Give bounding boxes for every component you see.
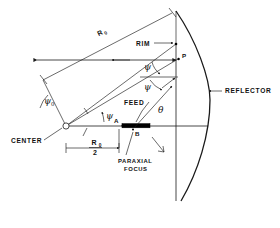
center-leader-line [44, 128, 62, 140]
point-b-label: B [135, 130, 140, 137]
psi-zero-arc-inner [84, 108, 88, 114]
reflector-label: REFLECTOR [225, 87, 271, 94]
ray-feed-to-p [134, 86, 172, 128]
r0-half-numerator: R [91, 139, 96, 146]
paraxial-focus-leader-right [152, 137, 164, 152]
psi-lower-arc [150, 80, 162, 90]
r0-dimension-line [43, 13, 172, 80]
psi-center-arc [102, 112, 104, 122]
feed-label: FEED [124, 99, 144, 106]
r0-label: R [96, 29, 104, 38]
rim-point-dot [175, 43, 178, 46]
point-a-label: A [114, 117, 119, 124]
psi-center-label: ψ [106, 111, 114, 121]
ray-center-to-p [66, 59, 178, 126]
r0-dimension-tick-right [169, 8, 176, 17]
r0-label-group: R 0 [96, 27, 108, 39]
point-b-dot [132, 129, 134, 131]
r0-half-denominator: 2 [93, 149, 97, 156]
r0-half-label-group: R 0 2 [89, 139, 102, 156]
paraxial-focus-label-line2: FOCUS [124, 166, 148, 172]
figure-root: R 0 ψ 0 ψ ψ ψ θ R 0 2 CENTER RIM REFLECT… [0, 0, 280, 228]
theta-label: θ [158, 105, 164, 115]
psi-upper-label: ψ [144, 62, 152, 72]
center-label: CENTER [11, 137, 42, 144]
point-p-label: P [182, 52, 186, 59]
psi-zero-label-subscript: 0 [51, 101, 55, 107]
point-p-dot [177, 58, 179, 60]
paraxial-focus-leader-left [126, 132, 133, 155]
ray-p-return-arrow [162, 78, 175, 88]
r0-dimension-tick-left [40, 75, 47, 84]
r0-label-subscript: 0 [103, 30, 108, 36]
caption-strip [0, 214, 280, 228]
paraxial-focus-label-line1: PARAXIAL [118, 158, 152, 164]
psi-lower-label: ψ [144, 82, 152, 92]
psi-center-tick [83, 128, 87, 136]
center-point-marker [63, 123, 69, 129]
reflector-geometry-diagram: R 0 ψ 0 ψ ψ ψ θ R 0 2 CENTER RIM REFLECT… [0, 0, 280, 228]
rim-label: RIM [136, 40, 150, 47]
reflector-parabola-curve [176, 11, 210, 201]
point-a-dot [121, 125, 123, 127]
